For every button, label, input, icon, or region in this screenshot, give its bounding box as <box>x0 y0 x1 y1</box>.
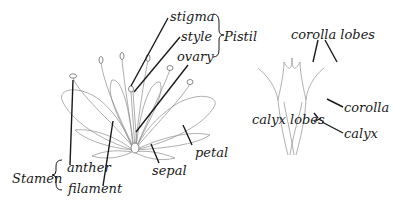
label-petal: petal <box>195 146 228 159</box>
flower-diagram: stigma style ovary Pistil anther filamen… <box>0 0 394 208</box>
label-calyx-lobes: calyx lobes <box>252 113 325 126</box>
label-anther: anther <box>67 161 111 174</box>
label-corolla-lobes: corolla lobes <box>291 28 375 41</box>
label-style: style <box>181 30 212 43</box>
label-calyx: calyx <box>344 127 378 140</box>
label-pistil: Pistil <box>224 30 257 43</box>
label-stamen: Stamen <box>12 172 62 185</box>
label-stigma: stigma <box>170 10 214 23</box>
pistil-brace <box>213 14 224 57</box>
label-filament: filament <box>68 182 122 195</box>
flower-tube-drawing <box>258 58 324 155</box>
label-ovary: ovary <box>177 50 213 63</box>
label-sepal: sepal <box>152 164 187 177</box>
label-corolla: corolla <box>344 101 389 114</box>
